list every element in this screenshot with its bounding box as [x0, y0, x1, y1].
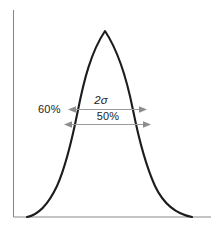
inner-percent-arrowhead-right [143, 121, 151, 128]
normal-distribution-figure: 60% 2σ 50% [0, 0, 219, 237]
inner-percent-arrow [64, 121, 151, 128]
sigma-span-label: 2σ [93, 94, 109, 106]
sigma-span-arrowhead-left [68, 106, 76, 113]
inner-percent-arrowhead-left [64, 121, 72, 128]
left-percent-label: 60% [38, 103, 61, 115]
sigma-span-arrowhead-right [139, 106, 147, 113]
inner-percent-label: 50% [97, 110, 120, 122]
